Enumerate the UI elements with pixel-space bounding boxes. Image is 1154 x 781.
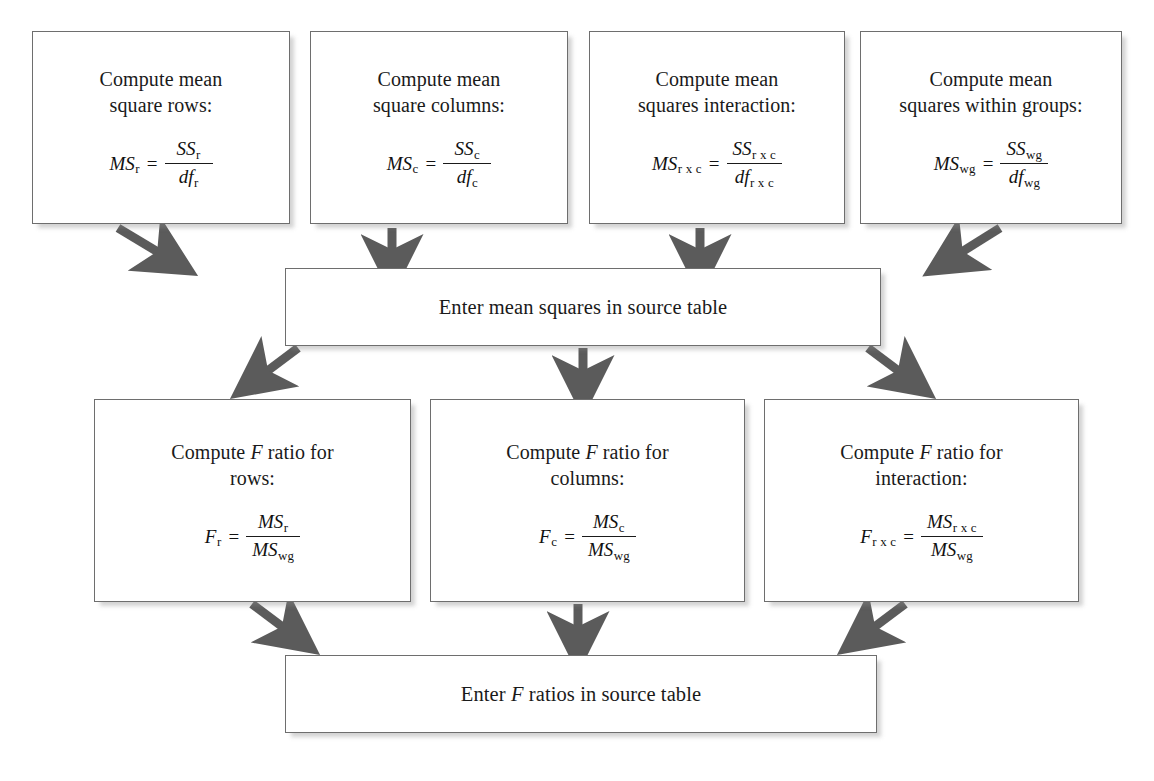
box-title: Compute F ratio forinteraction: — [840, 439, 1002, 491]
formula-ms-within-groups: MSwg = SSwg dfwg — [934, 138, 1049, 188]
formula-f-rows: Fr = MSr MSwg — [205, 511, 300, 561]
box-title: Enter mean squares in source table — [439, 294, 728, 321]
formula-ms-columns: MSc = SSc dfc — [387, 138, 491, 188]
arrow-middle-to-f-interaction — [868, 348, 908, 378]
arrow-f-interaction-to-bottom — [865, 604, 905, 634]
formula-ms-rows: MSr = SSr dfr — [109, 138, 212, 188]
box-compute-f-ratio-rows[interactable]: Compute F ratio forrows: Fr = MSr MSwg — [94, 399, 411, 602]
box-compute-mean-square-rows[interactable]: Compute meansquare rows: MSr = SSr dfr — [32, 31, 290, 224]
arrow-f-rows-to-bottom — [252, 604, 292, 634]
flowchart-canvas: Figure: Two-way ANOVA computation (conti… — [0, 0, 1154, 781]
box-compute-mean-squares-within-groups[interactable]: Compute meansquares within groups: MSwg … — [860, 31, 1122, 224]
box-enter-f-ratios[interactable]: Enter F ratios in source table — [285, 655, 877, 733]
box-title: Compute meansquare rows: — [100, 66, 223, 118]
box-compute-mean-square-columns[interactable]: Compute meansquare columns: MSc = SSc df… — [310, 31, 568, 224]
box-compute-f-ratio-interaction[interactable]: Compute F ratio forinteraction: Fr x c =… — [764, 399, 1079, 602]
box-enter-mean-squares[interactable]: Enter mean squares in source table — [285, 268, 881, 346]
arrow-ms-rows-to-middle — [118, 228, 168, 258]
arrow-ms-within-to-middle — [952, 228, 1000, 258]
box-title: Enter F ratios in source table — [461, 681, 701, 708]
formula-ms-interaction: MSr x c = SSr x c dfr x c — [652, 138, 782, 188]
box-title: Compute meansquare columns: — [373, 66, 505, 118]
arrow-middle-to-f-rows — [258, 348, 298, 378]
box-title: Compute F ratio forcolumns: — [506, 439, 668, 491]
box-compute-mean-squares-interaction[interactable]: Compute meansquares interaction: MSr x c… — [589, 31, 845, 224]
box-title: Compute F ratio forrows: — [171, 439, 333, 491]
box-title: Compute meansquares within groups: — [899, 66, 1082, 118]
formula-f-interaction: Fr x c = MSr x c MSwg — [860, 511, 983, 561]
formula-f-columns: Fc = MSc MSwg — [539, 511, 636, 561]
box-compute-f-ratio-columns[interactable]: Compute F ratio forcolumns: Fc = MSc MSw… — [430, 399, 745, 602]
box-title: Compute meansquares interaction: — [638, 66, 796, 118]
